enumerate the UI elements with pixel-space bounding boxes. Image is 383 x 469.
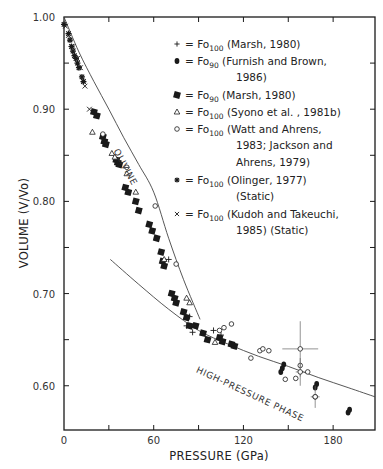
- open-triangle-marker: [90, 129, 96, 134]
- open-circle-marker: [217, 328, 222, 333]
- asterisk-marker: [67, 37, 73, 43]
- x-tick-label: 60: [147, 435, 160, 446]
- open-circle-marker: [305, 370, 310, 375]
- x-tick-label: 0: [61, 435, 67, 446]
- filled-square-marker: [135, 207, 143, 215]
- legend-label-cont: (Static): [236, 190, 274, 202]
- legend-item: = Fo90 (Marsh, 1980): [173, 89, 296, 104]
- plus-marker: [190, 329, 196, 335]
- curve-label: OLIVINE: [112, 147, 140, 187]
- y-tick-label: 0.90: [33, 104, 55, 115]
- legend-item: = Fo100 (Watt and Ahrens,1983; Jackson a…: [175, 123, 333, 168]
- legend-label-cont: 1985) (Static): [236, 224, 308, 236]
- filled-square-marker: [173, 91, 181, 99]
- y-tick-label: 0.80: [33, 196, 55, 207]
- open-circle-marker: [267, 348, 272, 353]
- plus-marker: [174, 41, 179, 46]
- legend-label: = Fo90 (Furnish and Brown,: [185, 55, 327, 70]
- legend-label-cont: Ahrens, 1979): [236, 156, 310, 168]
- curve-label: HIGH-PRESSURE PHASE: [195, 365, 306, 424]
- open-circle-marker: [101, 132, 106, 137]
- y-tick-label: 0.60: [33, 381, 55, 392]
- series: [90, 108, 238, 350]
- open-circle-marker: [229, 322, 234, 327]
- filled-square-marker: [192, 322, 200, 330]
- filled-square-marker: [132, 197, 140, 205]
- legend-label: = Fo90 (Marsh, 1980): [185, 89, 296, 104]
- legend-label: = Fo100 (Marsh, 1980): [185, 38, 300, 53]
- y-tick-label: 0.70: [33, 289, 55, 300]
- legend-label: = Fo100 (Olinger, 1977): [185, 174, 307, 189]
- x-tick-label: 120: [234, 435, 253, 446]
- asterisk-marker: [79, 74, 85, 80]
- y-tick-label: 1.00: [33, 12, 55, 23]
- plot-frame: [64, 17, 375, 430]
- x-marker: [175, 212, 179, 216]
- open-circle-marker: [153, 204, 158, 209]
- x-tick-label: 180: [324, 435, 343, 446]
- open-circle-marker: [261, 347, 266, 352]
- chart: 0601201800.600.700.800.901.00 OLIVINEHIG…: [0, 0, 383, 469]
- legend-item: = Fo100 (Olinger, 1977)(Static): [174, 174, 306, 202]
- filled-circle-marker: [175, 58, 180, 64]
- open-circle-marker: [222, 325, 227, 330]
- x-marker: [83, 84, 88, 89]
- x-axis-title: PRESSURE (GPa): [169, 449, 269, 463]
- filled-square-marker: [153, 234, 161, 242]
- plus-marker: [211, 327, 217, 333]
- high-pressure-phase-curve: [110, 259, 375, 396]
- filled-square-marker: [148, 227, 156, 235]
- legend: = Fo100 (Marsh, 1980)= Fo90 (Furnish and…: [173, 38, 341, 236]
- filled-square-marker: [157, 248, 165, 256]
- legend-item: = Fo100 (Syono et al. , 1981b): [174, 106, 341, 121]
- legend-label: = Fo100 (Watt and Ahrens,: [185, 123, 322, 138]
- series: [90, 129, 218, 344]
- open-circle-marker: [293, 376, 298, 381]
- asterisk-marker: [174, 177, 179, 182]
- legend-label: = Fo100 (Syono et al. , 1981b): [185, 106, 341, 121]
- open-circle-marker: [298, 370, 303, 375]
- open-circle-marker: [298, 347, 303, 352]
- open-circle-marker: [283, 377, 288, 382]
- legend-item: = Fo100 (Kudoh and Takeuchi,1985) (Stati…: [175, 208, 339, 236]
- filled-circle-marker: [347, 407, 352, 413]
- open-triangle-marker: [184, 295, 190, 300]
- legend-item: = Fo90 (Furnish and Brown,1986): [175, 55, 327, 83]
- legend-label-cont: 1986): [236, 71, 267, 83]
- x-marker: [87, 107, 92, 112]
- open-circle-marker: [175, 127, 180, 132]
- legend-label: = Fo100 (Kudoh and Takeuchi,: [185, 208, 339, 223]
- filled-circle-marker: [281, 362, 286, 368]
- y-axis-title: VOLUME (V/Vo): [17, 178, 31, 268]
- series: [61, 21, 86, 84]
- open-triangle-marker: [174, 109, 180, 114]
- plot-border: [64, 17, 375, 430]
- legend-label-cont: 1983; Jackson and: [236, 139, 333, 151]
- open-triangle-marker: [133, 189, 139, 194]
- open-circle-marker: [249, 356, 254, 361]
- asterisk-marker: [80, 79, 86, 85]
- legend-item: = Fo100 (Marsh, 1980): [174, 38, 300, 53]
- filled-square-marker: [145, 221, 153, 229]
- open-circle-marker: [174, 262, 179, 267]
- open-circle-marker: [313, 395, 318, 400]
